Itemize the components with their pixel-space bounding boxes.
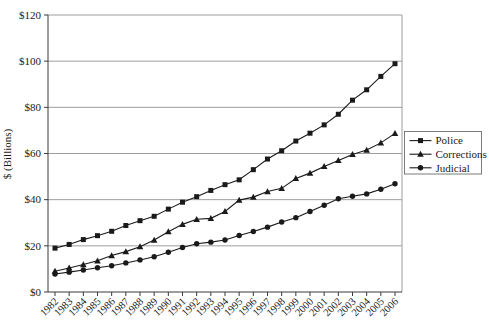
series-corrections bbox=[52, 130, 399, 274]
corrections-marker bbox=[137, 243, 144, 249]
judicial-marker bbox=[81, 267, 86, 272]
corrections-marker bbox=[378, 139, 385, 145]
police-marker bbox=[109, 229, 114, 234]
legend-police-marker bbox=[418, 138, 423, 143]
judicial-marker bbox=[52, 271, 57, 276]
police-marker bbox=[237, 177, 242, 182]
y-tick-label: $40 bbox=[25, 193, 42, 205]
police-marker bbox=[166, 207, 171, 212]
judicial-marker bbox=[151, 254, 156, 259]
police-marker bbox=[336, 112, 341, 117]
judicial-marker bbox=[321, 203, 326, 208]
judicial-marker bbox=[307, 209, 312, 214]
corrections-marker bbox=[392, 130, 399, 136]
y-axis-title: $ (Billions) bbox=[1, 128, 14, 179]
judicial-marker bbox=[378, 187, 383, 192]
judicial-marker bbox=[364, 191, 369, 196]
police-marker bbox=[81, 237, 86, 242]
legend-label-police: Police bbox=[436, 134, 464, 146]
judicial-marker bbox=[66, 269, 71, 274]
police-marker bbox=[293, 139, 298, 144]
judicial-marker bbox=[95, 265, 100, 270]
corrections-marker bbox=[307, 170, 314, 176]
series-judicial bbox=[52, 181, 397, 277]
y-tick-label: $80 bbox=[25, 101, 42, 113]
series-corrections-line bbox=[55, 133, 395, 271]
y-tick-label: $100 bbox=[19, 55, 42, 67]
corrections-marker bbox=[165, 228, 172, 234]
line-chart: $ (Billions) $0$20$40$60$80$100$12019821… bbox=[0, 0, 489, 328]
police-marker bbox=[350, 98, 355, 103]
police-marker bbox=[393, 61, 398, 66]
plot-area: $0$20$40$60$80$100$120198219831984198519… bbox=[19, 9, 487, 318]
police-marker bbox=[322, 122, 327, 127]
corrections-marker bbox=[151, 237, 158, 243]
y-tick-label: $20 bbox=[25, 240, 42, 252]
judicial-marker bbox=[293, 215, 298, 220]
police-marker bbox=[279, 148, 284, 153]
police-marker bbox=[308, 131, 313, 136]
judicial-marker bbox=[123, 260, 128, 265]
judicial-marker bbox=[251, 229, 256, 234]
judicial-marker bbox=[336, 196, 341, 201]
judicial-marker bbox=[392, 181, 397, 186]
police-marker bbox=[364, 87, 369, 92]
legend-label-corrections: Corrections bbox=[436, 148, 487, 160]
police-marker bbox=[223, 182, 228, 187]
corrections-marker bbox=[278, 185, 285, 191]
y-tick-label: $120 bbox=[19, 9, 42, 21]
police-marker bbox=[95, 233, 100, 238]
judicial-marker bbox=[109, 263, 114, 268]
police-marker bbox=[378, 74, 383, 79]
legend: PoliceCorrectionsJudicial bbox=[405, 132, 487, 175]
police-marker bbox=[194, 194, 199, 199]
judicial-marker bbox=[350, 194, 355, 199]
police-marker bbox=[208, 188, 213, 193]
police-marker bbox=[138, 218, 143, 223]
police-marker bbox=[123, 223, 128, 228]
police-marker bbox=[265, 157, 270, 162]
judicial-marker bbox=[208, 239, 213, 244]
legend-label-judicial: Judicial bbox=[436, 162, 470, 174]
judicial-marker bbox=[137, 257, 142, 262]
police-marker bbox=[251, 167, 256, 172]
police-marker bbox=[180, 200, 185, 205]
judicial-marker bbox=[222, 237, 227, 242]
judicial-marker bbox=[265, 224, 270, 229]
judicial-marker bbox=[180, 245, 185, 250]
police-marker bbox=[67, 242, 72, 247]
y-tick-label: $0 bbox=[30, 286, 42, 298]
judicial-marker bbox=[166, 250, 171, 255]
police-marker bbox=[53, 246, 58, 251]
judicial-marker bbox=[279, 219, 284, 224]
legend-judicial-marker bbox=[418, 165, 423, 170]
series-judicial-line bbox=[55, 184, 395, 274]
y-tick-label: $60 bbox=[25, 147, 42, 159]
corrections-marker bbox=[363, 147, 370, 153]
expenditure-line-chart-figure: $ (Billions) $0$20$40$60$80$100$12019821… bbox=[0, 0, 489, 328]
series-police-line bbox=[55, 64, 395, 248]
judicial-marker bbox=[194, 241, 199, 246]
police-marker bbox=[152, 214, 157, 219]
series-police bbox=[53, 61, 398, 250]
judicial-marker bbox=[236, 233, 241, 238]
